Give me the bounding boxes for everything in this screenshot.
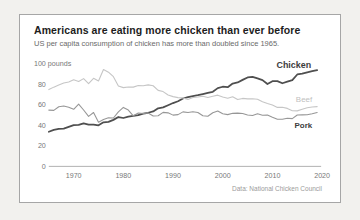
data-source-note: Data: National Chicken Council xyxy=(232,185,322,192)
pork-series-label: Pork xyxy=(295,121,313,130)
x-tick-label: 1980 xyxy=(115,172,131,180)
y-tick-label: 0 xyxy=(42,163,46,171)
screen: { "window": { "background": "#f2f1ee", "… xyxy=(0,0,360,220)
y-tick-label: 40 xyxy=(38,122,46,130)
beef-series-label: Beef xyxy=(296,95,313,104)
x-tick-label: 1990 xyxy=(165,172,181,180)
y-axis-top-label: 100 pounds xyxy=(34,60,72,68)
x-tick-label: 2010 xyxy=(264,172,280,180)
chicken-line xyxy=(49,70,317,132)
chicken-series-label: Chicken xyxy=(276,60,311,70)
y-tick-label: 80 xyxy=(38,81,46,89)
x-tick-label: 2020 xyxy=(314,172,330,180)
chart-card: Americans are eating more chicken than e… xyxy=(19,14,341,203)
x-tick-label: 1970 xyxy=(66,172,82,180)
line-chart: 020406080100 pounds197019801990200020102… xyxy=(20,15,340,202)
y-tick-label: 20 xyxy=(38,142,46,150)
beef-line xyxy=(49,70,317,111)
y-tick-label: 60 xyxy=(38,101,46,109)
x-tick-label: 2000 xyxy=(215,172,231,180)
